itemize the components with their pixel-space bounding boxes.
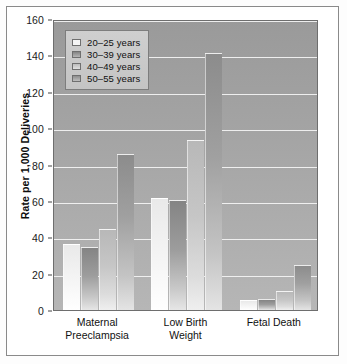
x-axis-category-label: MaternalPreeclampsia bbox=[53, 316, 141, 341]
y-tick-label-20: 20 bbox=[32, 269, 44, 281]
legend-label: 50–55 years bbox=[87, 73, 140, 84]
bar bbox=[240, 300, 257, 310]
legend-swatch-icon bbox=[72, 51, 81, 58]
y-tick-label-40: 40 bbox=[32, 232, 44, 244]
bar bbox=[169, 200, 186, 310]
legend-swatch-icon bbox=[72, 75, 81, 82]
x-axis-category-line: Fetal Death bbox=[230, 316, 318, 329]
chart-figure: Rate per 1,000 Deliveries 02040608010012… bbox=[0, 0, 347, 364]
x-axis-labels: MaternalPreeclampsiaLow BirthWeightFetal… bbox=[53, 316, 318, 356]
bar bbox=[81, 247, 98, 310]
y-tick-label-140: 140 bbox=[26, 50, 44, 62]
x-axis-category-line: Preeclampsia bbox=[53, 329, 141, 342]
y-axis-ticks: 020406080100120140160 bbox=[0, 20, 49, 311]
bar bbox=[117, 154, 134, 310]
plot-area: 20–25 years30–39 years40–49 years50–55 y… bbox=[53, 20, 318, 311]
y-tick-mark-60 bbox=[48, 201, 52, 202]
legend-label: 30–39 years bbox=[87, 49, 140, 60]
bar bbox=[276, 291, 293, 310]
legend-swatch-icon bbox=[72, 63, 81, 70]
legend-item: 20–25 years bbox=[72, 36, 140, 48]
legend-item: 50–55 years bbox=[72, 72, 140, 84]
y-tick-mark-20 bbox=[48, 274, 52, 275]
y-tick-label-160: 160 bbox=[26, 14, 44, 26]
y-tick-mark-100 bbox=[48, 129, 52, 130]
legend-swatch-icon bbox=[72, 39, 81, 46]
y-tick-label-100: 100 bbox=[26, 123, 44, 135]
y-tick-mark-80 bbox=[48, 165, 52, 166]
bar bbox=[151, 198, 168, 310]
legend: 20–25 years30–39 years40–49 years50–55 y… bbox=[65, 30, 149, 90]
bar-group bbox=[142, 21, 230, 310]
y-tick-mark-0 bbox=[48, 311, 52, 312]
y-tick-label-60: 60 bbox=[32, 196, 44, 208]
y-tick-label-0: 0 bbox=[38, 305, 44, 317]
y-tick-mark-120 bbox=[48, 92, 52, 93]
y-tick-label-80: 80 bbox=[32, 160, 44, 172]
bar bbox=[99, 229, 116, 310]
legend-label: 40–49 years bbox=[87, 61, 140, 72]
legend-item: 30–39 years bbox=[72, 48, 140, 60]
bar bbox=[187, 140, 204, 310]
y-tick-mark-140 bbox=[48, 56, 52, 57]
bar bbox=[205, 53, 222, 310]
bar-group bbox=[231, 21, 318, 310]
legend-item: 40–49 years bbox=[72, 60, 140, 72]
bar bbox=[63, 244, 80, 310]
bar bbox=[258, 299, 275, 310]
y-tick-label-120: 120 bbox=[26, 87, 44, 99]
y-tick-mark-160 bbox=[48, 20, 52, 21]
x-axis-category-label: Fetal Death bbox=[230, 316, 318, 329]
y-tick-mark-40 bbox=[48, 238, 52, 239]
x-axis-category-line: Low Birth bbox=[141, 316, 229, 329]
x-axis-category-label: Low BirthWeight bbox=[141, 316, 229, 341]
x-axis-category-line: Maternal bbox=[53, 316, 141, 329]
bar bbox=[294, 265, 311, 310]
legend-label: 20–25 years bbox=[87, 37, 140, 48]
x-axis-category-line: Weight bbox=[141, 329, 229, 342]
